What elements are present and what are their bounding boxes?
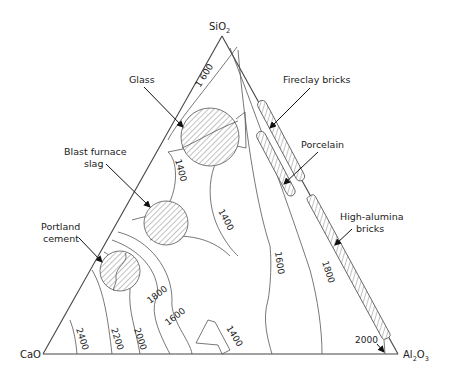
isotherm-label-1600-mid: 1600 [273, 251, 286, 275]
arrow-glass [144, 87, 183, 127]
label-high-alumina-line2: bricks [356, 223, 384, 234]
arrow-blast-furnace-slag [106, 164, 150, 207]
arrow-2000-right [377, 344, 384, 352]
ternary-diagram: SiO2 CaO Al2O3 Glass Blast furnace slag … [0, 0, 451, 376]
isotherm-2000-right [384, 340, 385, 354]
label-portland-cement-line2: cement [43, 233, 79, 244]
vertex-label-cao: CaO [20, 349, 41, 360]
label-porcelain: Porcelain [301, 139, 344, 150]
vertex-label-al2o3: Al2O3 [403, 349, 429, 363]
isotherm-label-2000-right: 2000 [355, 335, 378, 345]
region-portland-cement [100, 251, 140, 291]
arrow-fireclay-bricks [270, 88, 310, 128]
isotherm-2400 [70, 320, 77, 354]
label-fireclay-bricks: Fireclay bricks [283, 74, 351, 85]
isotherm-label-1400-b: 1400 [216, 207, 236, 232]
isotherm-1400-bottom [196, 320, 230, 354]
isotherms [70, 47, 385, 354]
label-blast-furnace-slag-line1: Blast furnace [64, 146, 127, 157]
isotherm-label-1800-right: 1800 [320, 260, 337, 285]
label-high-alumina-line1: High-alumina [340, 211, 403, 222]
region-glass [181, 108, 239, 166]
isotherm-label-2000-left: 2000 [132, 327, 149, 352]
label-glass: Glass [129, 74, 155, 85]
vertex-label-sio2: SiO2 [209, 21, 230, 35]
isotherm-label-1600-top: 1 600 [193, 62, 215, 89]
label-portland-cement-line1: Portland [41, 221, 80, 232]
label-blast-furnace-slag-line2: slag [84, 158, 103, 169]
isotherm-label-1600-left: 1600 [163, 305, 187, 327]
region-blast-furnace-slag [144, 201, 188, 245]
arrow-portland-cement [79, 238, 102, 262]
